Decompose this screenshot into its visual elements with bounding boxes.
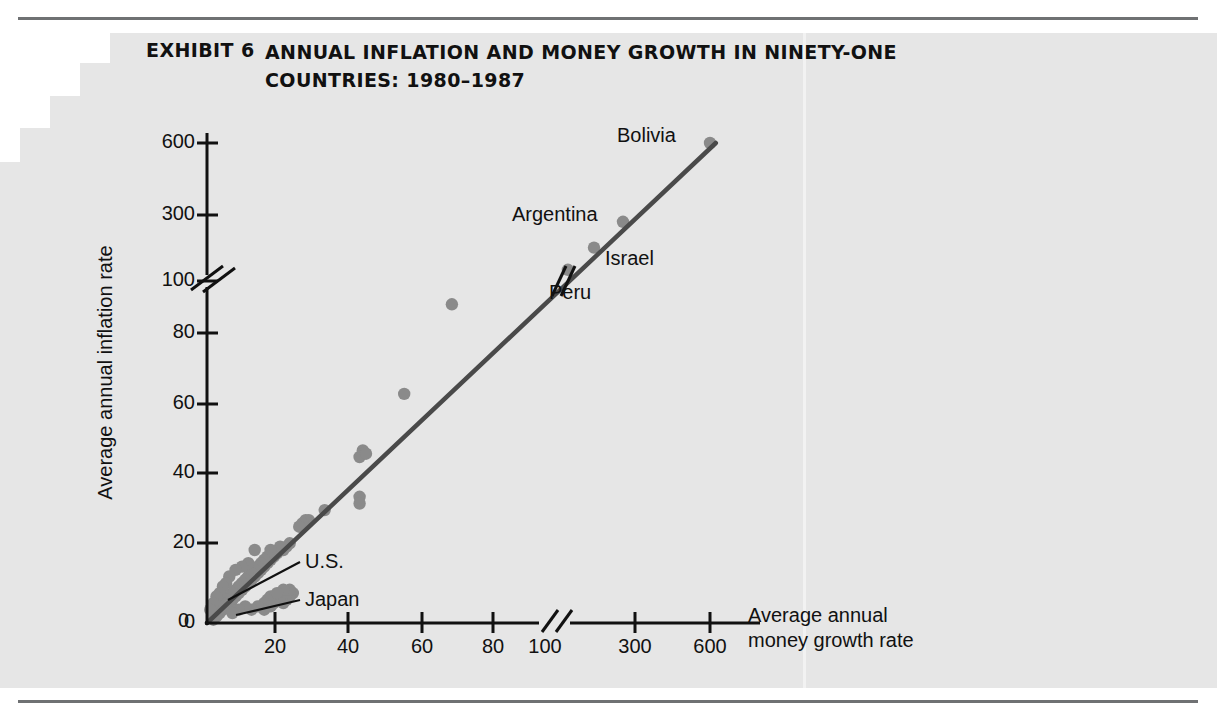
x-tick-label: 40 — [326, 635, 370, 658]
x-axis-break-mark — [556, 610, 572, 632]
data-point — [398, 388, 410, 400]
data-point — [353, 497, 365, 509]
y-tick-label: 80 — [120, 320, 195, 343]
y-tick-label: 20 — [120, 530, 195, 553]
x-tick-label: 600 — [688, 635, 732, 658]
y-axis-title: Average annual inflation rate — [93, 208, 118, 538]
data-point — [360, 448, 372, 460]
data-points — [204, 137, 716, 626]
label-japan: Japan — [305, 588, 360, 611]
data-point — [249, 544, 261, 556]
label-bolivia: Bolivia — [617, 124, 676, 147]
label-us: U.S. — [305, 550, 344, 573]
y-tick-label: 60 — [120, 391, 195, 414]
label-argentina: Argentina — [512, 203, 598, 226]
data-point — [271, 587, 283, 599]
y-tick-label: 40 — [120, 460, 195, 483]
x-tick-label: 80 — [471, 635, 515, 658]
y-tick-label: 300 — [120, 202, 195, 225]
x-axis-title-line2: money growth rate — [748, 628, 988, 653]
scanned-page: EXHIBIT 6 ANNUAL INFLATION AND MONEY GRO… — [0, 0, 1217, 719]
data-point — [446, 298, 458, 310]
x-tick-label: 60 — [400, 635, 444, 658]
x-tick-label: 20 — [253, 635, 297, 658]
x-tick-label: 100 — [523, 635, 567, 658]
x-axis-break-mark — [542, 610, 558, 632]
y-tick-label: 600 — [120, 130, 195, 153]
x-axis-title-line1: Average annual — [748, 603, 988, 628]
x-tick-label: 300 — [613, 635, 657, 658]
label-israel: Israel — [605, 247, 654, 270]
data-point — [226, 607, 238, 619]
x-tick-label-zero: 0 — [178, 609, 189, 632]
label-peru: Peru — [549, 281, 591, 304]
x-axis-title: Average annual money growth rate — [748, 603, 988, 653]
trend-line — [207, 143, 716, 623]
y-tick-label: 100 — [120, 268, 195, 291]
